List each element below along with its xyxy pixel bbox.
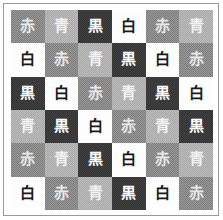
grid-cell-kuro[interactable]: 黒 xyxy=(78,10,112,43)
cell-label: 赤 xyxy=(20,19,35,34)
grid-cell-shiro[interactable]: 白 xyxy=(112,10,146,43)
cell-label: 黒 xyxy=(88,152,103,167)
grid-cell-kuro[interactable]: 黒 xyxy=(45,110,79,143)
cell-label: 黒 xyxy=(121,52,136,67)
cell-label: 青 xyxy=(121,86,136,101)
grid-cell-shiro[interactable]: 白 xyxy=(146,177,180,210)
cell-label: 赤 xyxy=(88,86,103,101)
cell-label: 青 xyxy=(189,19,204,34)
grid-cell-aka[interactable]: 赤 xyxy=(45,43,79,76)
figure-frame: 赤青黒白赤青白赤青黒白赤黒白赤青黒白青黒白赤青黒赤青黒白赤青白赤青黒白赤 xyxy=(3,3,219,216)
grid-cell-shiro[interactable]: 白 xyxy=(11,43,45,76)
cell-label: 赤 xyxy=(189,186,204,201)
cell-label: 黒 xyxy=(88,19,103,34)
grid-cell-shiro[interactable]: 白 xyxy=(146,43,180,76)
grid-cell-ao[interactable]: 青 xyxy=(179,143,213,176)
grid-cell-aka[interactable]: 赤 xyxy=(112,110,146,143)
cell-label: 赤 xyxy=(54,186,69,201)
grid-cell-kuro[interactable]: 黒 xyxy=(78,143,112,176)
grid-cell-aka[interactable]: 赤 xyxy=(45,177,79,210)
cell-label: 青 xyxy=(54,152,69,167)
cell-label: 赤 xyxy=(121,119,136,134)
grid-cell-shiro[interactable]: 白 xyxy=(112,143,146,176)
cell-label: 白 xyxy=(20,186,35,201)
grid-cell-shiro[interactable]: 白 xyxy=(179,77,213,110)
cell-label: 白 xyxy=(121,19,136,34)
grid-cell-aka[interactable]: 赤 xyxy=(179,43,213,76)
cell-label: 黒 xyxy=(54,119,69,134)
grid-cell-aka[interactable]: 赤 xyxy=(146,10,180,43)
grid-cell-kuro[interactable]: 黒 xyxy=(179,110,213,143)
grid-cell-kuro[interactable]: 黒 xyxy=(112,177,146,210)
grid-cell-ao[interactable]: 青 xyxy=(11,110,45,143)
grid-cell-kuro[interactable]: 黒 xyxy=(112,43,146,76)
color-word-grid: 赤青黒白赤青白赤青黒白赤黒白赤青黒白青黒白赤青黒赤青黒白赤青白赤青黒白赤 xyxy=(11,10,213,210)
grid-cell-kuro[interactable]: 黒 xyxy=(11,77,45,110)
grid-cell-ao[interactable]: 青 xyxy=(179,10,213,43)
cell-label: 白 xyxy=(155,186,170,201)
grid-cell-ao[interactable]: 青 xyxy=(45,10,79,43)
cell-label: 白 xyxy=(20,52,35,67)
grid-cell-shiro[interactable]: 白 xyxy=(11,177,45,210)
cell-label: 青 xyxy=(20,119,35,134)
grid-cell-ao[interactable]: 青 xyxy=(78,177,112,210)
grid-cell-aka[interactable]: 赤 xyxy=(11,10,45,43)
cell-label: 白 xyxy=(155,52,170,67)
cell-label: 白 xyxy=(54,86,69,101)
grid-cell-aka[interactable]: 赤 xyxy=(11,143,45,176)
grid-cell-ao[interactable]: 青 xyxy=(112,77,146,110)
cell-label: 青 xyxy=(88,52,103,67)
cell-label: 黒 xyxy=(189,119,204,134)
cell-label: 青 xyxy=(155,119,170,134)
cell-label: 黒 xyxy=(121,186,136,201)
grid-cell-kuro[interactable]: 黒 xyxy=(146,77,180,110)
grid-cell-ao[interactable]: 青 xyxy=(146,110,180,143)
grid-cell-shiro[interactable]: 白 xyxy=(78,110,112,143)
cell-label: 青 xyxy=(54,19,69,34)
cell-label: 黒 xyxy=(20,86,35,101)
cell-label: 白 xyxy=(88,119,103,134)
grid-cell-shiro[interactable]: 白 xyxy=(45,77,79,110)
cell-label: 赤 xyxy=(155,19,170,34)
cell-label: 赤 xyxy=(155,152,170,167)
cell-label: 赤 xyxy=(54,52,69,67)
grid-cell-aka[interactable]: 赤 xyxy=(146,143,180,176)
grid-cell-aka[interactable]: 赤 xyxy=(179,177,213,210)
cell-label: 青 xyxy=(88,186,103,201)
cell-label: 白 xyxy=(121,152,136,167)
grid-cell-aka[interactable]: 赤 xyxy=(78,77,112,110)
cell-label: 赤 xyxy=(20,152,35,167)
cell-label: 黒 xyxy=(155,86,170,101)
grid-cell-ao[interactable]: 青 xyxy=(78,43,112,76)
cell-label: 赤 xyxy=(189,52,204,67)
cell-label: 白 xyxy=(189,86,204,101)
cell-label: 青 xyxy=(189,152,204,167)
grid-cell-ao[interactable]: 青 xyxy=(45,143,79,176)
